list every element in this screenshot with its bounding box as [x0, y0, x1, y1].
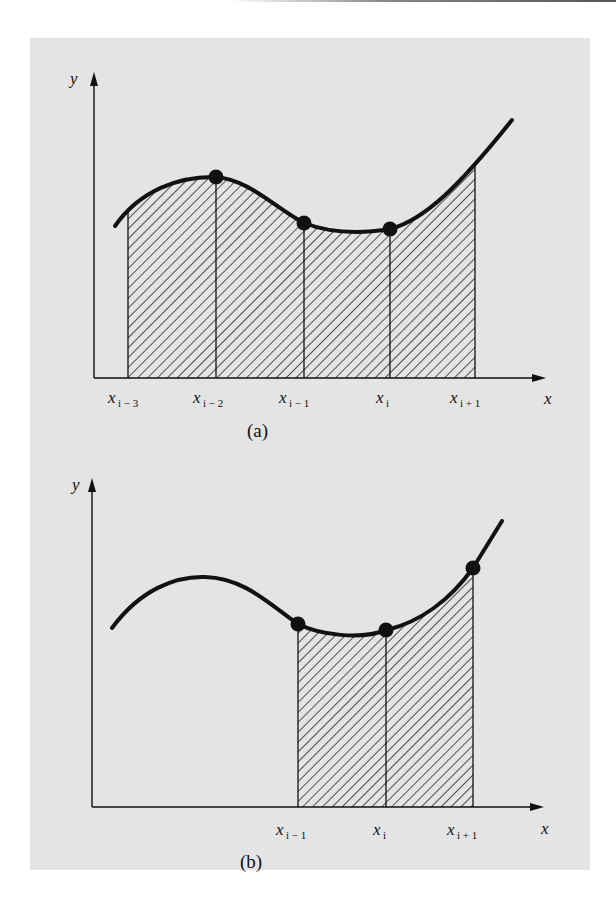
y-axis-arrow-icon [88, 478, 96, 492]
tick-label-a-2: x i − 1 [278, 388, 309, 409]
panel-a: y x x i − 3 x i − 2 x i − 1 x i x i + 1 … [68, 69, 552, 442]
tick-label-b-1: x i [372, 820, 386, 841]
y-axis-label-a: y [68, 69, 78, 88]
data-point-a-1 [209, 170, 224, 185]
svg-text:x: x [446, 820, 455, 839]
svg-text:x: x [375, 388, 384, 407]
svg-text:i − 3: i − 3 [118, 397, 139, 409]
svg-text:x: x [278, 388, 287, 407]
svg-text:x: x [275, 820, 284, 839]
data-point-a-2 [297, 216, 312, 231]
svg-text:i − 2: i − 2 [203, 397, 223, 409]
svg-text:i + 1: i + 1 [460, 397, 480, 409]
svg-text:i − 1: i − 1 [289, 397, 309, 409]
svg-text:i − 1: i − 1 [286, 829, 306, 841]
caption-a: (a) [247, 420, 268, 442]
svg-text:i: i [386, 397, 389, 409]
tick-label-b-0: x i − 1 [275, 820, 306, 841]
panel-b: y x x i − 1 x i x i + 1 (b) [70, 475, 549, 873]
svg-text:x: x [107, 388, 116, 407]
tick-label-a-3: x i [375, 388, 389, 409]
data-point-b-1 [291, 617, 306, 632]
svg-text:x: x [372, 820, 381, 839]
svg-text:x: x [449, 388, 458, 407]
data-point-b-3 [466, 561, 481, 576]
caption-b: (b) [240, 851, 262, 873]
data-point-a-3 [383, 222, 398, 237]
tick-label-a-4: x i + 1 [449, 388, 480, 409]
data-point-b-2 [379, 623, 394, 638]
y-axis-label-b: y [70, 475, 80, 494]
svg-text:i: i [383, 829, 386, 841]
hatched-area-a [128, 150, 475, 378]
svg-text:i + 1: i + 1 [457, 829, 477, 841]
y-axis-arrow-icon [90, 72, 98, 86]
x-axis-arrow-icon [530, 803, 544, 811]
tick-label-a-1: x i − 2 [192, 388, 223, 409]
tick-label-b-2: x i + 1 [446, 820, 477, 841]
x-axis-label-b: x [540, 819, 549, 838]
x-axis-arrow-icon [532, 374, 546, 382]
figure-svg: y x x i − 3 x i − 2 x i − 1 x i x i + 1 … [0, 0, 616, 916]
tick-label-a-0: x i − 3 [107, 388, 139, 409]
svg-text:x: x [192, 388, 201, 407]
x-axis-label-a: x [543, 389, 552, 408]
